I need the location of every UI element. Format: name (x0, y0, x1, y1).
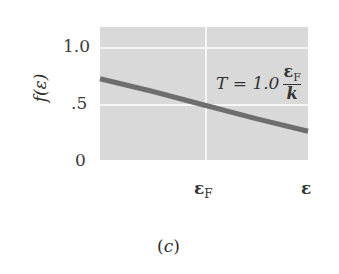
x-tick-ef-sub: F (204, 187, 212, 201)
annot-denominator: k (287, 85, 298, 102)
y-tick-05: .5 (71, 93, 87, 113)
x-tick-energy: ε (301, 178, 311, 198)
y-tick-0: 0 (75, 150, 86, 170)
x-tick-ef-main: ε (194, 178, 204, 198)
x-tick-fermi-energy: εF (194, 178, 213, 201)
annot-numerator: εF (283, 64, 300, 85)
chart-canvas (0, 0, 339, 274)
figure-caption: (c) (157, 236, 180, 256)
annot-num-sub: F (293, 71, 301, 84)
temperature-annotation: T = 1.0 εF k (216, 64, 301, 102)
y-axis-label: f(ε) (30, 68, 50, 108)
annot-fraction: εF k (283, 64, 300, 102)
caption-open: ( (157, 236, 164, 256)
caption-letter: c (164, 236, 174, 256)
caption-close: ) (173, 236, 180, 256)
annot-lhs: T = 1.0 (216, 73, 279, 93)
annot-num-main: ε (283, 62, 293, 81)
y-tick-1: 1.0 (63, 36, 90, 56)
